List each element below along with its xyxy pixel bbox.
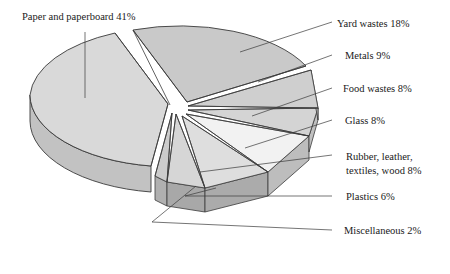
slice-paper-and-paperboard[interactable] (30, 33, 168, 192)
callout-label-plastics: Plastics 6% (346, 190, 395, 204)
callout-label-metals: Metals 9% (345, 49, 390, 63)
pie-chart-figure: Paper and paperboard 41% Yard wastes 18%… (0, 0, 450, 274)
callout-label-rubber-leather-textiles-wood-line2: textiles, wood 8% (346, 164, 422, 178)
callout-label-miscellaneous: Miscellaneous 2% (344, 224, 421, 238)
callout-label-food-wastes: Food wastes 8% (343, 82, 412, 96)
callout-label-paper-and-paperboard: Paper and paperboard 41% (22, 10, 135, 24)
callout-label-rubber-leather-textiles-wood-line1: Rubber, leather, (346, 150, 413, 164)
callout-label-glass: Glass 8% (345, 114, 385, 128)
callout-label-yard-wastes: Yard wastes 18% (337, 17, 409, 31)
